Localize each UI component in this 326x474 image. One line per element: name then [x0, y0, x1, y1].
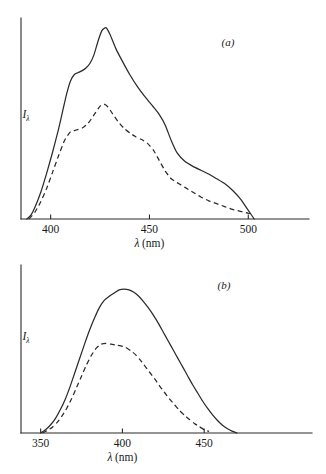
y-axis-subscript: λ	[25, 336, 30, 345]
plot-area-a: 400450500λ(nm)Iλ(a)	[0, 0, 326, 250]
curve-dashed-panel-b	[42, 343, 209, 433]
x-tick-label: 350	[32, 437, 50, 449]
chart-panel-a: 400450500λ(nm)Iλ(a)	[0, 0, 326, 250]
y-axis-title: Iλ	[21, 330, 30, 345]
panel-label-a: (a)	[222, 36, 235, 49]
x-axis-title: λ(nm)	[134, 237, 165, 250]
x-tick-label: 400	[42, 223, 60, 235]
plot-area-b: 350400450λ(nm)Iλ(b)	[0, 250, 326, 474]
curve-solid-panel-a	[27, 28, 254, 219]
chart-panel-b: 350400450λ(nm)Iλ(b)	[0, 250, 326, 474]
panel-label-b: (b)	[218, 279, 231, 292]
lambda-symbol: λ	[134, 237, 140, 249]
x-tick-label: 450	[141, 223, 159, 235]
y-axis-subscript: λ	[25, 114, 30, 123]
x-axis-title: λ(nm)	[106, 451, 137, 464]
curve-dashed-panel-a	[29, 104, 254, 219]
lambda-symbol: λ	[106, 451, 112, 463]
y-axis-title: Iλ	[21, 108, 30, 123]
x-tick-label: 400	[114, 437, 132, 449]
x-axis-unit: (nm)	[142, 237, 165, 250]
x-tick-label: 500	[240, 223, 258, 235]
x-axis-unit: (nm)	[115, 451, 138, 464]
curve-solid-panel-b	[41, 289, 237, 433]
spectra-figure: 400450500λ(nm)Iλ(a) 350400450λ(nm)Iλ(b)	[0, 0, 326, 474]
x-tick-label: 450	[196, 437, 214, 449]
